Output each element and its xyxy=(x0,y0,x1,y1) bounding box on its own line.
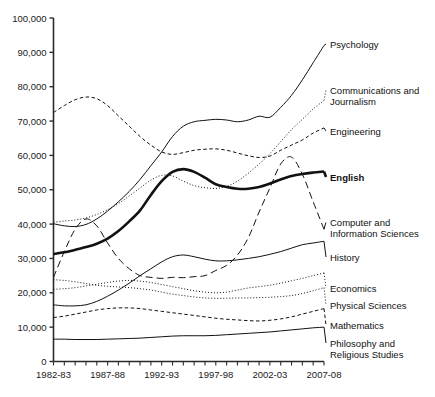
y-tick-label: 100,000 xyxy=(12,13,46,24)
leader-line xyxy=(324,288,326,305)
leader-line xyxy=(324,273,326,288)
series-line-computer-and-information-sciences xyxy=(54,157,325,279)
y-tick-label: 40,000 xyxy=(17,219,46,230)
leader-line xyxy=(324,241,326,257)
series-label-computer-and-information-sciences: Computer andInformation Sciences xyxy=(330,217,419,239)
leader-line xyxy=(324,128,326,131)
series-label-engineering: Engineering xyxy=(330,126,381,137)
y-tick-label: 70,000 xyxy=(17,116,46,127)
y-tick-label: 30,000 xyxy=(17,253,46,264)
x-tick-label: 1997-98 xyxy=(198,369,233,380)
series-lines xyxy=(54,45,325,339)
x-tick-label: 1992-93 xyxy=(144,369,179,380)
leader-line xyxy=(324,222,326,229)
leader-line xyxy=(324,44,326,45)
y-tick-label: 10,000 xyxy=(17,322,46,333)
leader-line xyxy=(324,90,326,100)
x-tick-label: 2007-08 xyxy=(307,369,342,380)
series-label-philosophy-and-religious-studies: Philosophy andReligious Studies xyxy=(330,338,404,360)
line-chart: 010,00020,00030,00040,00050,00060,00070,… xyxy=(0,0,435,397)
series-line-economics xyxy=(54,273,325,293)
y-tick-label: 80,000 xyxy=(17,81,46,92)
series-line-psychology xyxy=(54,45,325,226)
x-tick-label: 1987-88 xyxy=(90,369,125,380)
series-line-physical-sciences xyxy=(54,280,325,299)
series-label-communications-and-journalism: Communications andJournalism xyxy=(330,85,419,107)
y-tick-label: 60,000 xyxy=(17,150,46,161)
series-line-mathematics xyxy=(54,308,325,321)
x-axis-group: 1982-831987-881992-931997-982002-032007-… xyxy=(36,362,341,380)
series-labels: PsychologyCommunications andJournalismEn… xyxy=(330,39,419,360)
y-tick-label: 50,000 xyxy=(17,184,46,195)
y-axis-group: 010,00020,00030,00040,00050,00060,00070,… xyxy=(12,13,53,368)
series-line-communications-and-journalism xyxy=(54,100,325,222)
leader-line xyxy=(324,309,326,325)
series-label-physical-sciences: Physical Sciences xyxy=(330,300,407,311)
y-tick-label: 0 xyxy=(41,356,46,367)
y-tick-label: 20,000 xyxy=(17,287,46,298)
series-line-english xyxy=(54,169,325,254)
x-tick-label: 2002-03 xyxy=(252,369,287,380)
y-axis-tick-labels: 010,00020,00030,00040,00050,00060,00070,… xyxy=(12,13,46,368)
series-leader-lines xyxy=(324,44,326,343)
series-label-history: History xyxy=(330,252,360,263)
y-tick-label: 90,000 xyxy=(17,47,46,58)
chart-canvas: 010,00020,00030,00040,00050,00060,00070,… xyxy=(0,0,435,397)
series-label-english: English xyxy=(330,172,365,183)
series-label-mathematics: Mathematics xyxy=(330,320,384,331)
x-tick-label: 1982-83 xyxy=(36,369,71,380)
leader-line xyxy=(324,327,326,343)
series-label-economics: Economics xyxy=(330,283,377,294)
series-line-engineering xyxy=(54,97,325,158)
leader-line xyxy=(324,172,326,177)
series-label-psychology: Psychology xyxy=(330,39,379,50)
series-line-philosophy-and-religious-studies xyxy=(54,327,325,339)
x-axis-tick-labels: 1982-831987-881992-931997-982002-032007-… xyxy=(36,369,341,380)
